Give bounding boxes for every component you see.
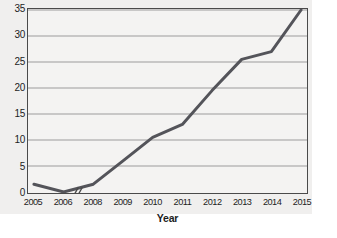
- y-tick-label: 5: [3, 162, 25, 172]
- x-tick-label: 2011: [167, 197, 197, 207]
- x-tick-label: 2014: [257, 197, 287, 207]
- x-tick-label: 2009: [108, 197, 138, 207]
- y-tick-label: 20: [3, 83, 25, 93]
- data-series-line: [34, 10, 301, 192]
- x-axis-tick-labels: 2005200620082009201020112012201320142015: [27, 196, 308, 210]
- x-tick-label: 2012: [197, 197, 227, 207]
- y-tick-label: 30: [3, 30, 25, 40]
- x-tick-label: 2006: [48, 197, 78, 207]
- gridlines: [28, 10, 307, 166]
- x-tick-label: 2013: [227, 197, 257, 207]
- chart-figure: Percent 05101520253035 20052006200820092…: [0, 0, 337, 238]
- y-tick-label: 35: [3, 4, 25, 14]
- x-axis-title: Year: [27, 212, 308, 224]
- y-tick-label: 15: [3, 109, 25, 119]
- x-tick-label: 2010: [138, 197, 168, 207]
- y-tick-label: 10: [3, 135, 25, 145]
- plot-area: [27, 8, 308, 194]
- x-tick-label: 2008: [78, 197, 108, 207]
- y-axis-tick-labels: 05101520253035: [0, 8, 25, 194]
- plot-svg: [28, 9, 307, 193]
- x-tick-label: 2005: [18, 197, 48, 207]
- y-tick-label: 25: [3, 57, 25, 67]
- x-tick-label: 2015: [287, 197, 317, 207]
